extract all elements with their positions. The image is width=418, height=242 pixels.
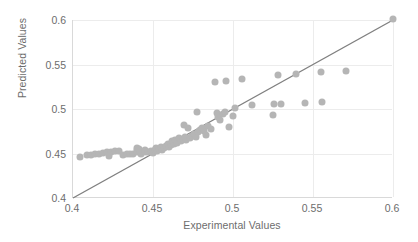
x-tick-label: 0.5 xyxy=(212,202,252,214)
x-tick-label: 0.45 xyxy=(132,202,172,214)
scatter-point xyxy=(77,153,84,160)
scatter-point xyxy=(292,70,299,77)
plot-area xyxy=(72,20,392,198)
x-tick-label: 0.4 xyxy=(52,202,92,214)
scatter-point xyxy=(278,101,285,108)
scatter-chart-figure: Predicted Values 0.40.450.50.550.6 0.40.… xyxy=(0,0,418,242)
scatter-point xyxy=(318,69,325,76)
scatter-point xyxy=(343,68,350,75)
x-tick-label: 0.6 xyxy=(372,202,412,214)
scatter-point xyxy=(202,131,209,138)
y-tick-label: 0.5 xyxy=(32,103,66,115)
x-tick-label: 0.55 xyxy=(292,202,332,214)
x-axis-label: Experimental Values xyxy=(72,219,392,231)
scatter-point xyxy=(222,77,229,84)
scatter-point xyxy=(194,108,201,115)
scatter-point xyxy=(248,102,255,109)
scatter-point xyxy=(319,98,326,105)
scatter-point xyxy=(270,101,277,108)
scatter-point xyxy=(222,109,229,116)
scatter-point xyxy=(229,112,236,119)
scatter-point xyxy=(207,125,214,132)
scatter-point xyxy=(269,112,276,119)
scatter-point xyxy=(217,116,224,123)
scatter-point xyxy=(275,72,282,79)
x-axis-tick-labels: 0.40.450.50.550.6 xyxy=(0,202,418,220)
scatter-point xyxy=(239,75,246,82)
y-tick-label: 0.6 xyxy=(32,14,66,26)
scatter-point xyxy=(389,15,396,22)
scatter-point xyxy=(231,105,238,112)
scatter-point xyxy=(302,99,309,106)
y-tick-label: 0.45 xyxy=(32,148,66,160)
scatter-point xyxy=(212,79,219,86)
y-tick-label: 0.55 xyxy=(32,59,66,71)
gridline-vertical xyxy=(393,20,394,197)
scatter-point xyxy=(225,124,232,131)
